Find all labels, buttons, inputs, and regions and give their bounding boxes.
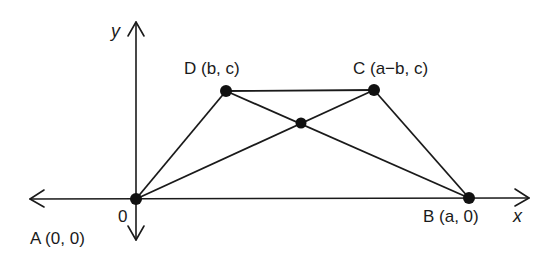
- y-axis: [128, 22, 144, 240]
- point-C: [368, 84, 380, 96]
- point-A-label: A (0, 0): [30, 229, 85, 248]
- y-axis-label: y: [109, 21, 121, 41]
- point-diagonal-intersection: [296, 118, 307, 129]
- point-D: [220, 85, 232, 97]
- x-axis-label: x: [512, 206, 523, 226]
- segment-AD: [136, 91, 226, 199]
- origin-label: 0: [118, 207, 127, 226]
- point-D-label: D (b, c): [184, 59, 240, 78]
- trapezoid-segments: [136, 90, 469, 199]
- diagonal-DB: [226, 91, 469, 198]
- segment-CB: [374, 90, 469, 198]
- point-A: [130, 193, 142, 205]
- diagonal-AC: [136, 90, 374, 199]
- point-B: [463, 192, 475, 204]
- trapezoid-diagram: y x 0 A (0, 0) B (a, 0) C (a−b, c) D (b,…: [0, 0, 560, 259]
- segment-DC: [226, 90, 374, 91]
- point-C-label: C (a−b, c): [353, 59, 428, 78]
- point-B-label: B (a, 0): [423, 207, 479, 226]
